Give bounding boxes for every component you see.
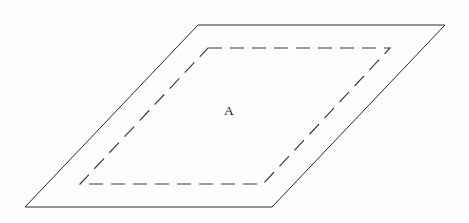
dashed-parallelogram-region	[80, 48, 390, 184]
solid-parallelogram-plane	[25, 25, 445, 207]
geometry-diagram-svg: A	[0, 0, 469, 223]
figure-container: A	[0, 0, 469, 223]
region-label-a: A	[224, 103, 234, 118]
